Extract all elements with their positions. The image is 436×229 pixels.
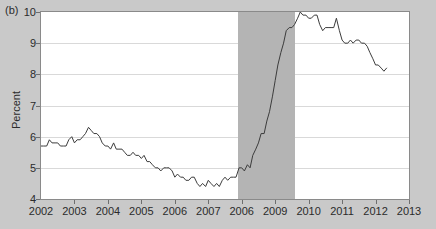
x-tick-mark-2 — [108, 200, 109, 204]
x-tick-label-8: 2010 — [296, 205, 320, 217]
x-tick-label-7: 2009 — [263, 205, 287, 217]
figure-panel-b: (b) Percent 45678910 2002200320042005200… — [0, 0, 436, 229]
x-tick-mark-6 — [242, 200, 243, 204]
x-tick-label-10: 2012 — [363, 205, 387, 217]
x-tick-mark-5 — [208, 200, 209, 204]
x-tick-label-11: 2013 — [397, 205, 421, 217]
x-tick-label-5: 2007 — [196, 205, 220, 217]
x-tick-mark-10 — [376, 200, 377, 204]
x-tick-label-3: 2005 — [129, 205, 153, 217]
x-tick-mark-7 — [275, 200, 276, 204]
x-tick-label-4: 2006 — [163, 205, 187, 217]
x-tick-mark-4 — [175, 200, 176, 204]
x-tick-label-9: 2011 — [330, 205, 354, 217]
x-tick-mark-8 — [309, 200, 310, 204]
x-tick-mark-9 — [342, 200, 343, 204]
x-tick-label-6: 2006 — [229, 205, 253, 217]
x-tick-label-1: 2003 — [62, 205, 86, 217]
x-tick-label-2: 2004 — [96, 205, 120, 217]
x-tick-label-0: 2002 — [29, 205, 53, 217]
x-axis-ticks: 2002200320042005200620072006200920102011… — [0, 0, 436, 229]
x-tick-mark-1 — [74, 200, 75, 204]
x-tick-mark-11 — [409, 200, 410, 204]
x-tick-mark-3 — [141, 200, 142, 204]
